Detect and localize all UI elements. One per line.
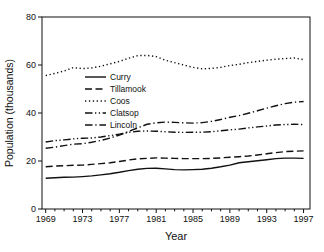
series-line-tillamook [46, 151, 304, 167]
x-tick-label: 1989 [220, 214, 240, 224]
series-line-coos [46, 55, 304, 75]
legend-label: Tillamook [110, 84, 147, 94]
y-tick-label: 80 [26, 12, 36, 22]
legend-label: Clatsop [110, 108, 139, 118]
legend-item-curry: Curry [85, 72, 132, 82]
x-tick-label: 1977 [109, 214, 129, 224]
legend-label: Coos [110, 96, 130, 106]
chart-legend: CurryTillamookCoosClatsopLincoln [85, 72, 147, 130]
legend-item-lincoln: Lincoln [85, 120, 137, 130]
x-tick-label: 1973 [73, 214, 93, 224]
legend-label: Lincoln [110, 120, 137, 130]
chart-canvas: 0204060801969197319771981198519891993199… [0, 0, 324, 252]
x-axis-title: Year [165, 230, 188, 242]
y-tick-label: 0 [31, 204, 36, 214]
x-tick-label: 1993 [257, 214, 277, 224]
legend-item-clatsop: Clatsop [85, 108, 139, 118]
plot-frame [42, 17, 310, 209]
series-line-clatsop [46, 124, 304, 142]
legend-item-tillamook: Tillamook [85, 84, 147, 94]
x-tick-label: 1985 [183, 214, 203, 224]
plot-area: 0204060801969197319771981198519891993199… [26, 12, 314, 224]
series-line-lincoln [46, 102, 304, 149]
x-tick-label: 1969 [36, 214, 56, 224]
x-tick-label: 1981 [146, 214, 166, 224]
y-tick-label: 40 [26, 108, 36, 118]
legend-item-coos: Coos [85, 96, 130, 106]
y-tick-label: 60 [26, 60, 36, 70]
legend-label: Curry [110, 72, 132, 82]
population-line-chart-figure: 0204060801969197319771981198519891993199… [0, 0, 324, 252]
y-tick-label: 20 [26, 156, 36, 166]
x-tick-label: 1997 [294, 214, 314, 224]
series-line-curry [46, 158, 304, 178]
y-axis-title: Population (thousands) [3, 59, 15, 167]
